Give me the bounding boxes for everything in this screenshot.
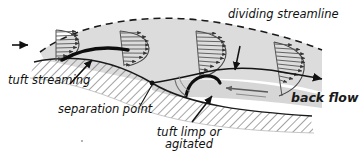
label-separation-point: separation point xyxy=(58,102,153,116)
label-tuft-streaming: tuft streaming xyxy=(8,73,90,87)
label-dividing-streamline: dividing streamline xyxy=(228,7,339,21)
label-back-flow: back flow xyxy=(291,90,359,105)
separation-point-marker xyxy=(150,81,155,86)
boundary-layer-separation-diagram: tuft streaming separation point dividing… xyxy=(0,0,360,157)
label-tuft-limp-line2: agitated xyxy=(165,137,214,151)
scan-speck xyxy=(81,140,83,142)
